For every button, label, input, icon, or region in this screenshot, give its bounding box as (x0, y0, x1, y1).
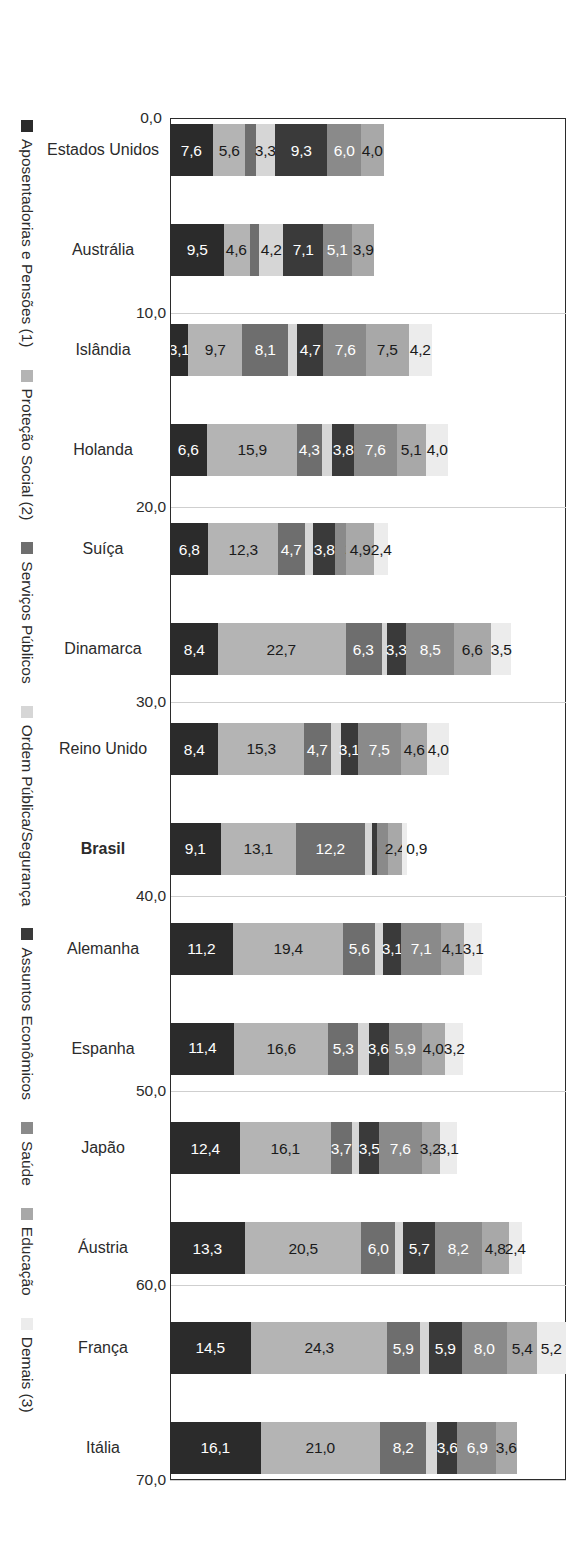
bar-segment[interactable]: 1,5 (288, 324, 296, 376)
bar-segment[interactable]: 5,6 (213, 124, 245, 176)
legend-item[interactable]: Saúde (18, 1122, 36, 1186)
bar-segment[interactable]: 3,6 (496, 1422, 516, 1474)
bar-segment[interactable]: 7,1 (401, 923, 441, 975)
bar-segment[interactable]: 4,0 (427, 723, 450, 775)
bar-segment[interactable]: 6,0 (361, 1222, 395, 1274)
bar-segment[interactable]: 4,0 (361, 124, 384, 176)
bar-segment[interactable]: 6,9 (457, 1422, 496, 1474)
bar-segment[interactable]: 12,3 (208, 523, 278, 575)
legend-item[interactable]: Proteção Social (2) (18, 370, 36, 521)
bar-segment[interactable]: 3,5 (359, 1122, 379, 1174)
bar-segment[interactable]: 19,4 (233, 923, 343, 975)
bar-column[interactable]: 9,54,61,74,27,15,13,9 (170, 224, 566, 276)
bar-segment[interactable]: 15,9 (207, 424, 297, 476)
bar-segment[interactable]: 4,7 (278, 523, 305, 575)
bar-segment[interactable]: 7,5 (358, 723, 400, 775)
bar-column[interactable]: 6,615,94,31,93,87,65,14,0 (170, 424, 566, 476)
bar-segment[interactable]: 3,1 (464, 923, 482, 975)
bar-segment[interactable]: 3,8 (332, 424, 353, 476)
bar-segment[interactable]: 3,1 (170, 324, 188, 376)
bar-segment[interactable]: 1,9 (322, 424, 333, 476)
bar-segment[interactable]: 8,0 (462, 1322, 507, 1374)
bar-segment[interactable]: 3,6 (437, 1422, 457, 1474)
bar-segment[interactable]: 4,0 (426, 424, 449, 476)
bar-segment[interactable]: 1,5 (305, 523, 313, 575)
bar-segment[interactable]: 5,6 (343, 923, 375, 975)
bar-segment[interactable]: 2,4 (388, 823, 402, 875)
bar-column[interactable]: 3,19,78,11,54,77,67,54,2 (170, 324, 566, 376)
bar-segment[interactable]: 4,7 (304, 723, 331, 775)
bar-segment[interactable]: 1,7 (250, 224, 260, 276)
bar-segment[interactable]: 9,5 (170, 224, 224, 276)
bar-segment[interactable]: 4,3 (297, 424, 321, 476)
bar-column[interactable]: 11,219,45,61,53,17,14,13,1 (170, 923, 566, 975)
bar-segment[interactable]: 3,3 (387, 623, 406, 675)
legend-item[interactable]: Ordem Pública/Segurança (18, 706, 36, 907)
bar-segment[interactable]: 5,1 (323, 224, 352, 276)
bar-segment[interactable]: 1,3 (365, 823, 372, 875)
bar-segment[interactable]: 3,9 (352, 224, 374, 276)
bar-segment[interactable]: 3,8 (313, 523, 334, 575)
bar-column[interactable]: 8,415,34,71,83,17,54,64,0 (170, 723, 566, 775)
bar-segment[interactable]: 1,9 (426, 1422, 437, 1474)
bar-segment[interactable]: 6,6 (454, 623, 491, 675)
bar-segment[interactable]: 8,4 (170, 623, 218, 675)
bar-segment[interactable]: 8,5 (406, 623, 454, 675)
bar-segment[interactable]: 6,6 (170, 424, 207, 476)
bar-column[interactable]: 6,812,34,71,53,82,14,92,4 (170, 523, 566, 575)
bar-column[interactable]: 11,416,65,31,83,65,94,03,2 (170, 1023, 566, 1075)
legend-item[interactable]: Assuntos Econômicos (18, 928, 36, 1100)
bar-segment[interactable]: 7,5 (366, 324, 408, 376)
bar-segment[interactable]: 8,2 (380, 1422, 426, 1474)
bar-segment[interactable]: 8,1 (242, 324, 288, 376)
bar-segment[interactable]: 7,1 (283, 224, 323, 276)
bar-segment[interactable]: 13,3 (170, 1222, 245, 1274)
bar-segment[interactable]: 16,1 (240, 1122, 331, 1174)
bar-segment[interactable]: 1,4 (395, 1222, 403, 1274)
bar-segment[interactable]: 7,6 (323, 324, 366, 376)
bar-column[interactable]: 14,524,35,91,65,98,05,45,2 (170, 1322, 566, 1374)
bar-segment[interactable]: 8,4 (170, 723, 218, 775)
bar-segment[interactable]: 20,5 (245, 1222, 361, 1274)
bar-segment[interactable]: 11,2 (170, 923, 233, 975)
bar-column[interactable]: 12,416,13,71,23,57,63,23,1 (170, 1122, 566, 1174)
bar-segment[interactable]: 12,4 (170, 1122, 240, 1174)
bar-segment[interactable]: 1,6 (420, 1322, 429, 1374)
bar-segment[interactable]: 3,5 (491, 623, 511, 675)
bar-segment[interactable]: 15,3 (218, 723, 305, 775)
bar-segment[interactable]: 4,6 (401, 723, 427, 775)
bar-segment[interactable]: 16,6 (234, 1023, 328, 1075)
bar-segment[interactable]: 6,8 (170, 523, 208, 575)
bar-column[interactable]: 16,121,08,21,93,66,93,6 (170, 1422, 566, 1474)
bar-segment[interactable]: 7,6 (170, 124, 213, 176)
bar-segment[interactable]: 12,2 (296, 823, 365, 875)
legend-item[interactable]: Demais (3) (18, 1318, 36, 1413)
bar-segment[interactable]: 14,5 (170, 1322, 251, 1374)
bar-column[interactable]: 13,320,56,01,45,78,24,82,4 (170, 1222, 566, 1274)
bar-segment[interactable]: 9,3 (275, 124, 328, 176)
bar-segment[interactable]: 3,1 (341, 723, 359, 775)
legend-item[interactable]: Educação (18, 1208, 36, 1296)
bar-column[interactable]: 7,65,62,03,39,36,04,0 (170, 124, 566, 176)
bar-segment[interactable]: 7,6 (379, 1122, 422, 1174)
bar-segment[interactable]: 3,2 (445, 1023, 463, 1075)
bar-segment[interactable]: 24,3 (251, 1322, 387, 1374)
bar-segment[interactable]: 4,1 (441, 923, 464, 975)
bar-segment[interactable]: 3,6 (369, 1023, 389, 1075)
bar-segment[interactable]: 3,1 (440, 1122, 458, 1174)
bar-segment[interactable]: 2,1 (335, 523, 347, 575)
bar-segment[interactable]: 21,0 (261, 1422, 380, 1474)
bar-segment[interactable]: 5,2 (537, 1322, 566, 1374)
bar-segment[interactable]: 9,1 (170, 823, 221, 875)
bar-segment[interactable]: 7,6 (354, 424, 397, 476)
bar-segment[interactable]: 6,3 (346, 623, 382, 675)
bar-segment[interactable]: 5,9 (389, 1023, 422, 1075)
legend-item[interactable]: Serviços Públicos (18, 542, 36, 683)
bar-segment[interactable]: 16,1 (170, 1422, 261, 1474)
bar-segment[interactable]: 22,7 (218, 623, 346, 675)
bar-segment[interactable]: 5,3 (328, 1023, 358, 1075)
bar-column[interactable]: 9,113,112,21,30,92,02,40,9 (170, 823, 566, 875)
bar-segment[interactable]: 5,4 (507, 1322, 537, 1374)
bar-segment[interactable]: 5,9 (429, 1322, 462, 1374)
bar-segment[interactable]: 8,2 (435, 1222, 481, 1274)
